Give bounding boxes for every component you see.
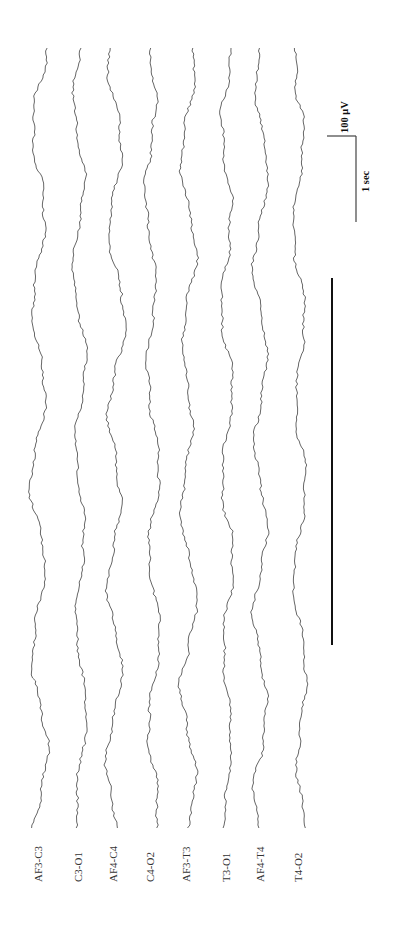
channel-label: AF4-T4 xyxy=(254,847,266,882)
channel-label: C4-O2 xyxy=(144,852,156,882)
channel-label: AF3-C3 xyxy=(32,846,44,882)
eeg-figure: AF3-C3C3-O1AF4-C4C4-O2AF3-T3T3-O1AF4-T4T… xyxy=(0,0,403,928)
eeg-traces xyxy=(0,0,403,928)
channel-label: AF4-C4 xyxy=(107,846,119,882)
eeg-trace-af4-c4 xyxy=(104,48,126,828)
channel-label: AF3-T3 xyxy=(180,847,192,882)
eeg-trace-c3-o1 xyxy=(72,48,88,828)
eeg-trace-t4-o2 xyxy=(293,48,308,828)
channel-label: C3-O1 xyxy=(72,852,84,882)
time-scale-label: 1 sec xyxy=(360,171,371,192)
channel-label: T3-O1 xyxy=(220,853,232,882)
channel-label: T4-O2 xyxy=(292,853,304,882)
amplitude-scale-label: 100 μV xyxy=(339,101,350,133)
eeg-trace-t3-o1 xyxy=(220,48,234,828)
eeg-trace-af3-t3 xyxy=(178,48,199,828)
eeg-trace-af3-c3 xyxy=(29,48,50,828)
eeg-trace-af4-t4 xyxy=(251,48,269,828)
eeg-trace-c4-o2 xyxy=(144,48,161,828)
